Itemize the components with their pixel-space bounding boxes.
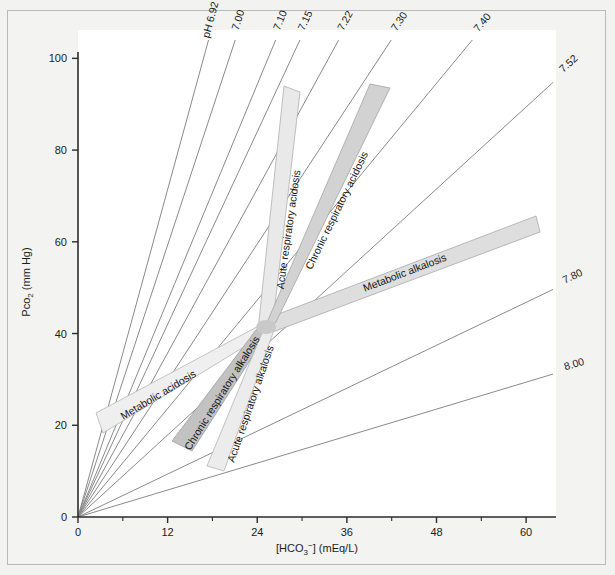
y-tick-label: 60 — [55, 236, 67, 248]
x-tick-label: 48 — [430, 526, 442, 538]
x-tick-label: 36 — [341, 526, 353, 538]
x-tick-label: 0 — [75, 526, 81, 538]
y-axis-title: Pco2 (mm Hg) — [20, 247, 35, 316]
x-tick-label: 24 — [251, 526, 263, 538]
ph-label-7.80: 7.80 — [560, 266, 584, 286]
ph-label-7.00: 7.00 — [229, 8, 247, 31]
x-axis-title: [HCO3−] (mEq/L) — [276, 541, 358, 557]
y-tick-label: 20 — [55, 419, 67, 431]
normal-point-marker — [256, 320, 276, 334]
ph-label-8.00: 8.00 — [562, 355, 585, 372]
y-tick-group: 020406080100 — [49, 52, 78, 523]
y-tick-label: 0 — [61, 511, 67, 523]
ph-label-7.52: 7.52 — [556, 52, 579, 75]
x-tick-label: 60 — [520, 526, 532, 538]
y-tick-label: 40 — [55, 328, 67, 340]
x-tick-group: 01224364860 — [75, 517, 532, 538]
acid-base-nomogram-figure: Acute respiratory acidosis Chronic respi… — [0, 0, 615, 575]
ph-label-7.22: 7.22 — [335, 8, 355, 32]
ph-label-7.30: 7.30 — [388, 9, 409, 33]
plot-canvas — [78, 30, 556, 517]
x-tick-label: 12 — [162, 526, 174, 538]
ph-label-7.10: 7.10 — [270, 8, 289, 32]
y-tick-label: 100 — [49, 52, 67, 64]
y-tick-label: 80 — [55, 144, 67, 156]
nomogram-plot: Acute respiratory acidosis Chronic respi… — [0, 0, 615, 575]
ph-label-7.15: 7.15 — [295, 8, 315, 32]
